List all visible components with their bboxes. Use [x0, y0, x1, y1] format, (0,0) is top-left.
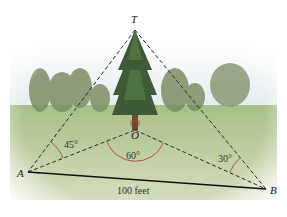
- point-label-A: A: [17, 168, 24, 179]
- point-label-O: O: [131, 130, 139, 141]
- point-label-B: B: [270, 185, 277, 196]
- angle-label-O: 60°: [126, 151, 140, 161]
- angle-label-B: 30°: [218, 154, 232, 164]
- angle-label-A: 45°: [64, 140, 78, 150]
- point-label-T: T: [131, 14, 137, 25]
- base-length-label: 100 feet: [117, 186, 150, 196]
